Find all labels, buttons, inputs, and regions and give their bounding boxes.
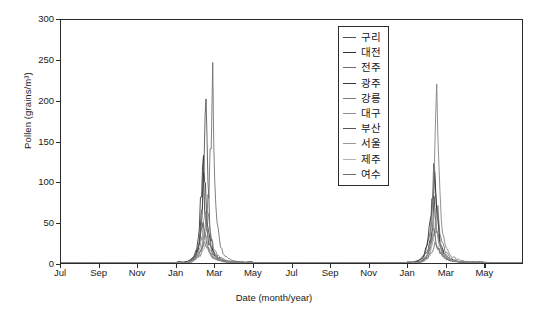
y-tick-label: 50 xyxy=(24,218,54,228)
legend-color-swatch xyxy=(343,98,356,99)
y-tick-label: 250 xyxy=(24,55,54,65)
x-tick-mark xyxy=(330,264,331,268)
series-line xyxy=(61,172,522,263)
x-tick-label: Nov xyxy=(117,268,157,278)
x-tick-mark xyxy=(253,264,254,268)
x-axis-title: Date (month/year) xyxy=(0,292,548,303)
plot-area xyxy=(60,19,523,264)
x-tick-label: May xyxy=(464,268,504,278)
legend-item-label: 제주 xyxy=(361,154,381,165)
y-tick-label: 300 xyxy=(24,14,54,24)
x-tick-label: Jul xyxy=(40,268,80,278)
legend-item-label: 강릉 xyxy=(361,93,381,104)
y-tick-mark xyxy=(56,101,60,102)
x-tick-mark xyxy=(407,264,408,268)
x-tick-mark xyxy=(137,264,138,268)
x-tick-label: Nov xyxy=(349,268,389,278)
x-tick-label: May xyxy=(233,268,273,278)
x-tick-label: Mar xyxy=(194,268,234,278)
x-tick-label: Jan xyxy=(156,268,196,278)
y-tick-mark xyxy=(56,182,60,183)
y-tick-mark xyxy=(56,19,60,20)
legend-item[interactable]: 강릉 xyxy=(343,91,381,106)
y-tick-label: 150 xyxy=(24,137,54,147)
legend-item[interactable]: 전주 xyxy=(343,60,381,75)
x-tick-mark xyxy=(484,264,485,268)
legend-item[interactable]: 여수 xyxy=(343,167,381,182)
legend-color-swatch xyxy=(343,37,356,38)
x-tick-mark xyxy=(369,264,370,268)
legend-item[interactable]: 구리 xyxy=(343,30,381,45)
x-tick-label: Jul xyxy=(272,268,312,278)
legend-item[interactable]: 대전 xyxy=(343,45,381,60)
legend-color-swatch xyxy=(343,143,356,144)
legend-color-swatch xyxy=(343,52,356,53)
legend-item-label: 대구 xyxy=(361,108,381,119)
y-tick-mark xyxy=(56,60,60,61)
legend-item[interactable]: 대구 xyxy=(343,106,381,121)
legend-item[interactable]: 서울 xyxy=(343,136,381,151)
x-tick-label: Jan xyxy=(387,268,427,278)
series-line xyxy=(61,99,522,263)
legend-color-swatch xyxy=(343,113,356,114)
x-tick-mark xyxy=(292,264,293,268)
x-tick-label: Mar xyxy=(426,268,466,278)
legend-item-label: 광주 xyxy=(361,78,381,89)
series-line xyxy=(61,84,522,263)
legend-color-swatch xyxy=(343,128,356,129)
legend-item-label: 서울 xyxy=(361,138,381,149)
x-tick-mark xyxy=(60,264,61,268)
legend-item-label: 부산 xyxy=(361,123,381,134)
y-tick-label: 100 xyxy=(24,177,54,187)
series-line xyxy=(61,209,522,263)
legend-item-label: 전주 xyxy=(361,62,381,73)
x-tick-label: Sep xyxy=(79,268,119,278)
legend-color-swatch xyxy=(343,159,356,160)
y-tick-mark xyxy=(56,142,60,143)
pollen-time-series-figure: Pollen (grains/m³) 050100150200250300 Ju… xyxy=(0,0,548,317)
legend-item-label: 구리 xyxy=(361,32,381,43)
legend-color-swatch xyxy=(343,174,356,175)
x-tick-mark xyxy=(99,264,100,268)
legend-item-label: 여수 xyxy=(361,169,381,180)
x-tick-label: Sep xyxy=(310,268,350,278)
y-tick-label: 200 xyxy=(24,96,54,106)
x-tick-mark xyxy=(214,264,215,268)
legend-color-swatch xyxy=(343,83,356,84)
x-tick-mark xyxy=(176,264,177,268)
series-lines xyxy=(61,20,522,263)
series-line xyxy=(61,212,522,263)
legend-item[interactable]: 제주 xyxy=(343,152,381,167)
x-tick-mark xyxy=(446,264,447,268)
legend-color-swatch xyxy=(343,67,356,68)
series-line xyxy=(61,62,522,263)
legend-item-label: 대전 xyxy=(361,47,381,58)
legend-item[interactable]: 광주 xyxy=(343,76,381,91)
series-line xyxy=(61,156,522,263)
y-tick-mark xyxy=(56,223,60,224)
legend-item[interactable]: 부산 xyxy=(343,121,381,136)
legend: 구리대전전주광주강릉대구부산서울제주여수 xyxy=(338,26,389,186)
